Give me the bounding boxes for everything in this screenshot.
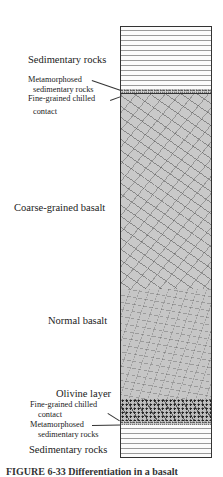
figure-caption: FIGURE 6-33 Differentiation in a basalt: [6, 466, 178, 477]
label-coarse-basalt: Coarse-grained basalt: [14, 203, 105, 214]
layer-coarse-basalt: [121, 94, 211, 289]
layer-sedimentary-bottom: [121, 425, 211, 457]
label-sedimentary-bottom: Sedimentary rocks: [29, 445, 107, 456]
leader-chilled-bottom: [107, 413, 119, 421]
stratigraphic-column: [120, 26, 212, 458]
leader-metamorphosed-top: [92, 80, 121, 91]
label-sedimentary-top: Sedimentary rocks: [28, 55, 106, 66]
label-metamorphosed-bottom: Metamorphosed: [30, 421, 84, 429]
label-metamorphosed-top: Metamorphosed: [28, 76, 82, 84]
label-chilled-top-2: contact: [33, 108, 57, 116]
leader-metamorphosed-bottom: [92, 424, 121, 426]
label-normal-basalt: Normal basalt: [48, 316, 107, 327]
layer-normal-basalt: [121, 289, 211, 399]
label-chilled-bottom: Fine-grained chilled: [30, 401, 97, 409]
label-olivine-layer: Olivine layer: [56, 389, 111, 400]
label-chilled-bottom-2: contact: [38, 411, 62, 419]
layer-sedimentary-top: [121, 27, 211, 89]
label-chilled-top: Fine-grained chilled: [28, 95, 95, 103]
label-metamorphosed-bottom-2: sedimentary rocks: [38, 431, 99, 439]
